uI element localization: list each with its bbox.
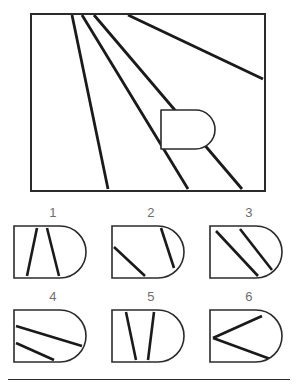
footer-divider bbox=[8, 379, 290, 380]
option-6[interactable]: 6 bbox=[204, 289, 294, 367]
option-5-figure[interactable] bbox=[110, 308, 192, 364]
ray-4 bbox=[128, 15, 263, 79]
option-2-figure[interactable] bbox=[110, 224, 192, 280]
stimulus-panel bbox=[30, 13, 266, 192]
option-4-number: 4 bbox=[8, 289, 98, 304]
option-1-figure[interactable] bbox=[12, 224, 94, 280]
option-5[interactable]: 5 bbox=[106, 289, 196, 367]
option-1-number: 1 bbox=[8, 205, 98, 220]
ray-3 bbox=[94, 15, 242, 189]
ray-1 bbox=[72, 15, 108, 189]
option-5-number: 5 bbox=[106, 289, 196, 304]
puzzle-page: 1 2 3 4 5 6 bbox=[0, 0, 298, 392]
options-grid: 1 2 3 4 5 6 bbox=[0, 205, 298, 370]
option-4[interactable]: 4 bbox=[8, 289, 98, 367]
stimulus-rays bbox=[72, 15, 263, 189]
d-shape-overlay bbox=[161, 110, 215, 149]
option-fill bbox=[210, 310, 282, 362]
option-6-number: 6 bbox=[204, 289, 294, 304]
option-3-figure[interactable] bbox=[208, 224, 290, 280]
option-fill bbox=[112, 226, 184, 278]
ray-2 bbox=[82, 15, 188, 189]
option-6-figure[interactable] bbox=[208, 308, 290, 364]
option-1[interactable]: 1 bbox=[8, 205, 98, 283]
option-2-number: 2 bbox=[106, 205, 196, 220]
option-3-number: 3 bbox=[204, 205, 294, 220]
stimulus-figure bbox=[30, 13, 266, 192]
option-fill bbox=[14, 226, 86, 278]
option-4-figure[interactable] bbox=[12, 308, 94, 364]
option-3[interactable]: 3 bbox=[204, 205, 294, 283]
option-2[interactable]: 2 bbox=[106, 205, 196, 283]
stimulus-frame bbox=[31, 14, 265, 191]
